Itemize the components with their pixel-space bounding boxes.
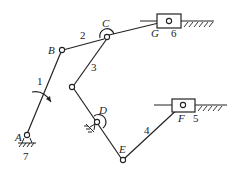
- label-a: A: [14, 131, 22, 143]
- label-b: B: [48, 44, 55, 56]
- label-e: E: [118, 143, 126, 155]
- link-1: [27, 52, 61, 134]
- label-4: 4: [144, 124, 150, 136]
- label-1: 1: [37, 75, 43, 87]
- joint-c: [104, 34, 109, 39]
- label-5: 5: [193, 112, 199, 124]
- label-7: 7: [23, 150, 29, 162]
- label-g: G: [151, 27, 159, 39]
- joint-a: [24, 132, 29, 137]
- joint-f: [180, 102, 185, 107]
- joint-e: [120, 157, 125, 162]
- label-f: F: [177, 112, 185, 124]
- joint-g: [166, 18, 171, 23]
- ground-support-d: [84, 124, 95, 132]
- link-3: [74, 40, 106, 85]
- label-c: C: [102, 17, 110, 29]
- label-6: 6: [171, 27, 177, 39]
- joint-link3-pin: [69, 84, 74, 89]
- link-4: [125, 106, 181, 158]
- label-3: 3: [91, 61, 97, 73]
- ground-hatch-6: [184, 22, 213, 27]
- label-2: 2: [80, 29, 86, 41]
- label-d: D: [98, 104, 107, 116]
- mechanism-diagram: A 7 1 B 2 C 3 G 6 D E 4 F 5: [0, 0, 242, 169]
- joint-b: [59, 47, 64, 52]
- joint-d: [94, 119, 99, 124]
- ground-hatch-5: [198, 106, 222, 111]
